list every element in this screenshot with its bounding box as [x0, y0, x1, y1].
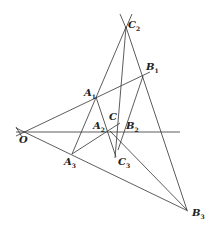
label-A1: A1 [84, 88, 96, 100]
line-C2-A3 [72, 27, 126, 154]
label-A3: A3 [64, 157, 76, 169]
label-B1: B1 [146, 62, 159, 74]
label-O: O [19, 135, 28, 145]
line-A2-B3 [110, 131, 187, 210]
label-C2: C2 [128, 20, 140, 32]
line-C2-B3 [126, 27, 187, 210]
line-B1-B2 [118, 76, 143, 150]
geometry-figure: C2 B1 A1 C A2 B2 O A3 C3 B3 [0, 0, 218, 237]
label-B3: B3 [192, 208, 205, 220]
label-C3: C3 [118, 157, 130, 169]
label-C: C [109, 112, 117, 124]
label-B2: B2 [126, 121, 139, 133]
arc-mark-C2a [120, 14, 126, 28]
label-A2: A2 [93, 121, 105, 133]
ray-O-B3 [16, 128, 188, 211]
